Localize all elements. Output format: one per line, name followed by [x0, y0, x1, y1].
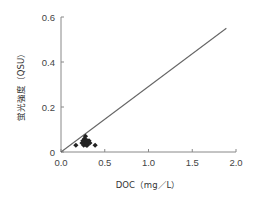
- y-axis-label: 蛍光強度（QSU）: [16, 49, 26, 121]
- y-tick-label: 0.2: [42, 102, 55, 113]
- x-tick-label: 1.0: [142, 157, 155, 168]
- scatter-chart: 0.00.51.01.52.000.20.40.6 DOC（mg／L） 蛍光強度…: [0, 0, 257, 204]
- one-to-one-line: [61, 28, 226, 152]
- x-tick-label: 0.0: [54, 157, 67, 168]
- reference-line: [61, 28, 226, 152]
- x-tick-label: 1.5: [186, 157, 199, 168]
- y-tick-label: 0.4: [42, 57, 55, 68]
- x-tick-label: 0.5: [98, 157, 111, 168]
- data-point-diamond: [93, 143, 98, 148]
- x-axis-label: DOC（mg／L）: [116, 180, 181, 190]
- y-tick-label: 0.6: [42, 12, 55, 23]
- y-tick-label: 0: [50, 147, 55, 158]
- data-point-diamond: [73, 143, 78, 148]
- plot-area: 0.00.51.01.52.000.20.40.6 DOC（mg／L） 蛍光強度…: [0, 0, 257, 204]
- x-tick-label: 2.0: [229, 157, 242, 168]
